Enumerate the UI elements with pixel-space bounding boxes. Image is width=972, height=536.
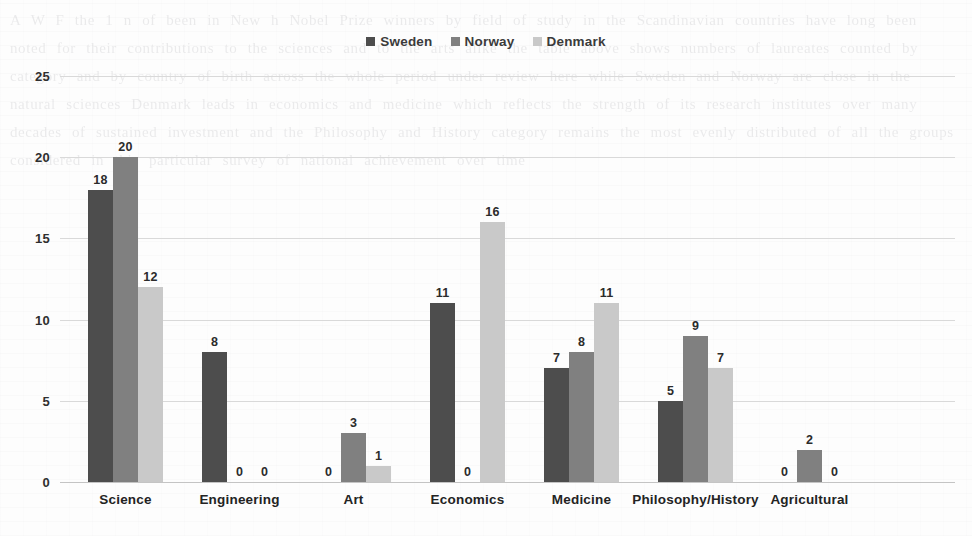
y-axis-tick-label: 25 (35, 69, 50, 84)
chart-page: A W F the 1 n of been in New h Nobel Pri… (0, 0, 972, 536)
bar-value-label: 20 (111, 140, 141, 154)
bar-group: 597 (658, 76, 733, 482)
plot-area: 182012800031110167811597020 (60, 76, 955, 482)
bar-value-label: 12 (136, 270, 166, 284)
bar-value-label: 0 (453, 465, 483, 479)
legend-label: Norway (465, 34, 515, 49)
bar-value-label: 11 (428, 286, 458, 300)
bar[interactable] (594, 303, 619, 482)
bar-value-label: 3 (339, 416, 369, 430)
bar[interactable] (797, 450, 822, 482)
y-axis-tick-label: 0 (42, 475, 50, 490)
bar-value-label: 1 (364, 449, 394, 463)
x-axis-category-label: Engineering (199, 492, 279, 507)
legend-item-norway[interactable]: Norway (451, 34, 515, 49)
x-axis-category-label: Agricultural (770, 492, 848, 507)
legend-swatch-icon (451, 37, 460, 46)
legend-swatch-icon (366, 37, 375, 46)
bar-value-label: 7 (706, 351, 736, 365)
bar[interactable] (366, 466, 391, 482)
x-axis-category-label: Medicine (552, 492, 611, 507)
bar-value-label: 18 (86, 173, 116, 187)
y-axis-tick-label: 10 (35, 312, 50, 327)
bar-value-label: 2 (795, 433, 825, 447)
bar[interactable] (569, 352, 594, 482)
x-axis-line (60, 482, 955, 483)
legend-label: Denmark (547, 34, 606, 49)
bar-value-label: 7 (542, 351, 572, 365)
bar[interactable] (113, 157, 138, 482)
bar[interactable] (341, 433, 366, 482)
bar-value-label: 16 (478, 205, 508, 219)
x-axis-category-label: Economics (431, 492, 505, 507)
chart-legend: SwedenNorwayDenmark (0, 34, 972, 49)
y-axis-tick-label: 5 (42, 393, 50, 408)
bar-value-label: 0 (770, 465, 800, 479)
legend-item-denmark[interactable]: Denmark (533, 34, 606, 49)
bar-value-label: 0 (820, 465, 850, 479)
bar[interactable] (480, 222, 505, 482)
bar-group: 020 (772, 76, 847, 482)
x-axis-category-label: Science (99, 492, 151, 507)
bar[interactable] (708, 368, 733, 482)
bar[interactable] (138, 287, 163, 482)
bar-value-label: 0 (314, 465, 344, 479)
bar-group: 11016 (430, 76, 505, 482)
bar[interactable] (430, 303, 455, 482)
bar[interactable] (658, 401, 683, 482)
bar[interactable] (683, 336, 708, 482)
bar[interactable] (88, 190, 113, 482)
bar-group: 7811 (544, 76, 619, 482)
bar-value-label: 11 (592, 286, 622, 300)
legend-swatch-icon (533, 37, 542, 46)
bar-value-label: 8 (200, 335, 230, 349)
bar-value-label: 9 (681, 319, 711, 333)
y-axis-tick-label: 15 (35, 231, 50, 246)
bar[interactable] (202, 352, 227, 482)
bar-value-label: 8 (567, 335, 597, 349)
x-axis-category-label: Art (343, 492, 363, 507)
x-axis-labels: ScienceEngineeringArtEconomicsMedicinePh… (60, 492, 955, 516)
bar[interactable] (544, 368, 569, 482)
y-axis-labels: 0510152025 (10, 76, 50, 482)
bar-group: 031 (316, 76, 391, 482)
y-axis-tick-label: 20 (35, 150, 50, 165)
bar-group: 800 (202, 76, 277, 482)
legend-label: Sweden (380, 34, 432, 49)
bar-value-label: 0 (250, 465, 280, 479)
x-axis-category-label: Philosophy/History (632, 492, 759, 507)
bar-group: 182012 (88, 76, 163, 482)
legend-item-sweden[interactable]: Sweden (366, 34, 432, 49)
bar-value-label: 5 (656, 384, 686, 398)
